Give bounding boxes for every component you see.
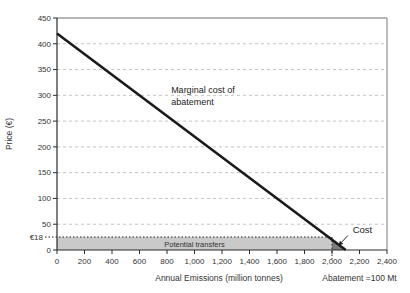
y-tick-label: 150 <box>38 168 52 177</box>
marginal-cost-label: abatement <box>171 97 214 107</box>
cost-arrow-line <box>342 236 348 243</box>
y-tick-label: 300 <box>38 91 52 100</box>
x-tick-label: 1,000 <box>184 257 205 266</box>
x-tick-label: 200 <box>78 257 92 266</box>
y-tick-label: 0 <box>47 246 52 255</box>
x-tick-label: 1,400 <box>239 257 260 266</box>
potential-transfers-label: Potential transfers <box>164 240 225 249</box>
y-tick-label: 50 <box>42 220 51 229</box>
y-axis-title: Price (€) <box>4 118 14 150</box>
x-tick-label: 600 <box>133 257 147 266</box>
price-marker-label: €18 <box>30 233 44 242</box>
y-tick-label: 450 <box>38 14 52 23</box>
x-axis-title: Annual Emissions (million tonnes) <box>155 273 283 283</box>
y-tick-label: 400 <box>38 40 52 49</box>
abatement-label: Abatement =100 Mt <box>322 273 397 283</box>
x-tick-label: 0 <box>55 257 60 266</box>
x-tick-label: 2,200 <box>349 257 370 266</box>
marginal-cost-abatement-chart: 050100150200250300350400450€180200400600… <box>0 0 410 293</box>
marginal-cost-label: Marginal cost of <box>171 85 235 95</box>
x-tick-label: 2,000 <box>322 257 343 266</box>
marginal-cost-line <box>57 33 346 250</box>
y-tick-label: 250 <box>38 117 52 126</box>
x-tick-label: 800 <box>160 257 174 266</box>
y-tick-label: 200 <box>38 143 52 152</box>
x-tick-label: 2,400 <box>377 257 398 266</box>
chart-figure: 050100150200250300350400450€180200400600… <box>0 0 410 293</box>
x-tick-label: 1,200 <box>212 257 233 266</box>
y-tick-label: 100 <box>38 194 52 203</box>
x-tick-label: 400 <box>105 257 119 266</box>
cost-label: Cost <box>353 224 373 235</box>
y-tick-label: 350 <box>38 65 52 74</box>
x-tick-label: 1,800 <box>294 257 315 266</box>
x-tick-label: 1,600 <box>267 257 288 266</box>
